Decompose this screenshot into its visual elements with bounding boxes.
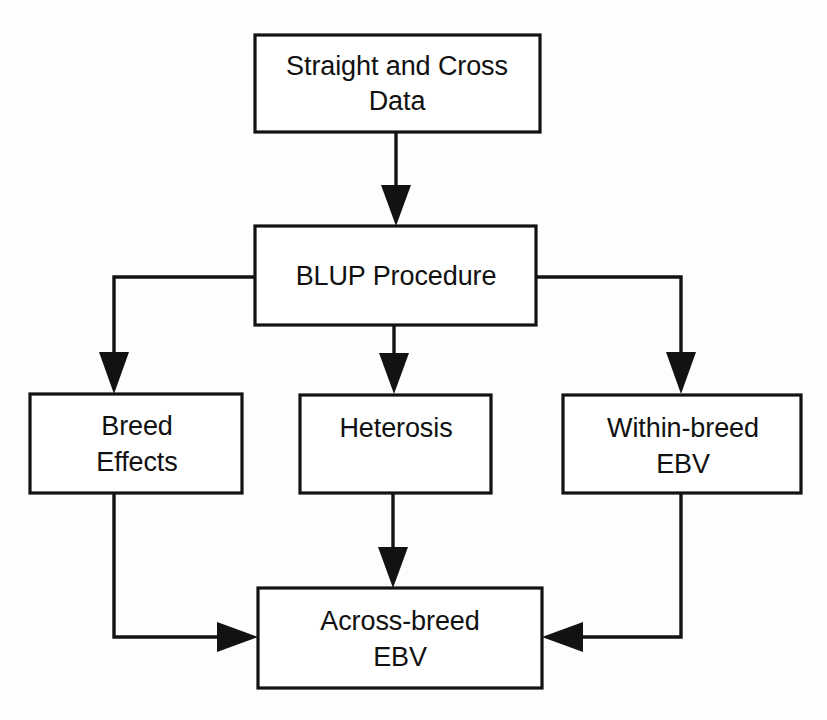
edge-line (114, 277, 255, 356)
edge-blup-to-heterosis (379, 325, 409, 394)
arrow-head-down-icon (666, 352, 696, 394)
node-label-line1: Straight and Cross (286, 51, 508, 81)
node-label-line2: EBV (656, 449, 710, 479)
node-label-line1: BLUP Procedure (296, 261, 497, 291)
node-straight-and-cross-data[interactable]: Straight and Cross Data (255, 35, 540, 132)
edge-within-breed-ebv-to-across-breed-ebv (542, 493, 681, 652)
edge-data-to-blup (381, 132, 411, 226)
edge-blup-to-breed-effects (99, 277, 255, 394)
node-box (300, 395, 491, 493)
node-label-line2: EBV (373, 642, 427, 672)
node-label-line2: Effects (96, 447, 177, 477)
edge-line (536, 277, 681, 356)
node-heterosis[interactable]: Heterosis (300, 395, 491, 493)
node-label-line1: Across-breed (320, 606, 479, 636)
node-blup-procedure[interactable]: BLUP Procedure (255, 226, 536, 325)
node-label-line2: Data (369, 86, 427, 116)
arrow-head-left-icon (542, 622, 583, 652)
node-box (258, 588, 542, 688)
edge-heterosis-to-across-breed-ebv (378, 493, 408, 588)
edge-line (114, 493, 222, 637)
arrow-head-right-icon (217, 622, 258, 652)
node-label-line1: Heterosis (339, 413, 452, 443)
flowchart-svg: Straight and Cross Data BLUP Procedure B… (0, 0, 827, 720)
arrow-head-down-icon (381, 185, 411, 226)
node-label-line1: Breed (101, 411, 173, 441)
edge-blup-to-within-breed-ebv (536, 277, 696, 394)
edge-breed-effects-to-across-breed-ebv (114, 493, 258, 652)
node-box (255, 35, 540, 132)
node-box (30, 394, 242, 493)
node-breed-effects[interactable]: Breed Effects (30, 394, 242, 493)
arrow-head-down-icon (379, 353, 409, 394)
arrow-head-down-icon (99, 352, 129, 394)
flowchart-canvas: Straight and Cross Data BLUP Procedure B… (0, 0, 827, 720)
edge-line (578, 493, 681, 637)
node-label-line1: Within-breed (607, 413, 759, 443)
arrow-head-down-icon (378, 547, 408, 588)
node-across-breed-ebv[interactable]: Across-breed EBV (258, 588, 542, 688)
node-within-breed-ebv[interactable]: Within-breed EBV (563, 395, 801, 493)
